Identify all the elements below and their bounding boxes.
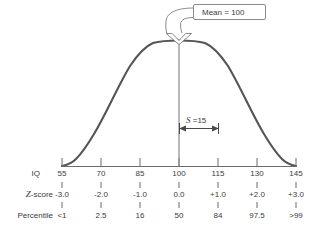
row-label-z-score: Z-score: [26, 190, 53, 199]
percentile-tick-label-2: 16: [136, 211, 145, 220]
callout-leader-inner: [181, 18, 194, 34]
row-label-percentile: Percentile: [17, 211, 53, 220]
sd-value: =15: [191, 116, 207, 125]
z-tick-label-5: +2.0: [249, 190, 265, 199]
iq-tick-label-6: 145: [289, 169, 302, 178]
z-tick-label-0: -3.0: [55, 190, 69, 199]
percentile-tick-label-6: >99: [289, 211, 303, 220]
iq-tick-label-4: 115: [212, 169, 225, 178]
percentile-tick-label-3: 50: [175, 211, 184, 220]
z-tick-label-6: +3.0: [288, 190, 304, 199]
percentile-tick-label-0: <1: [57, 211, 66, 220]
iq-tick-label-2: 85: [136, 169, 145, 178]
normal-distribution-figure: IQ 55 70 85 100 115 130 145 Z-score -3.0…: [0, 0, 324, 231]
sd-annotation-label: S =15: [186, 115, 206, 125]
percentile-row-connector-ticks: [62, 202, 296, 208]
sd-arrowhead-right: [212, 126, 219, 132]
callout-leader-outer: [166, 8, 194, 34]
percentile-tick-label-4: 84: [214, 211, 223, 220]
iq-tick-label-0: 55: [58, 169, 67, 178]
percentile-tick-label-5: 97.5: [249, 211, 265, 220]
iq-tick-label-3: 100: [172, 169, 185, 178]
z-tick-label-4: +1.0: [210, 190, 226, 199]
z-rest: -score: [31, 190, 53, 199]
iq-tick-label-5: 130: [250, 169, 263, 178]
iq-tick-label-1: 70: [97, 169, 106, 178]
percentile-tick-label-1: 2.5: [95, 211, 106, 220]
mean-callout-label: Mean = 100: [202, 8, 244, 17]
z-tick-label-1: -2.0: [94, 190, 108, 199]
row-label-iq: IQ: [32, 169, 40, 178]
sd-arrowhead-left: [179, 126, 186, 132]
callout-arrowhead: [166, 34, 191, 45]
z-tick-label-2: -1.0: [133, 190, 147, 199]
z-row-connector-ticks: [62, 182, 296, 188]
z-tick-label-3: 0.0: [173, 190, 184, 199]
